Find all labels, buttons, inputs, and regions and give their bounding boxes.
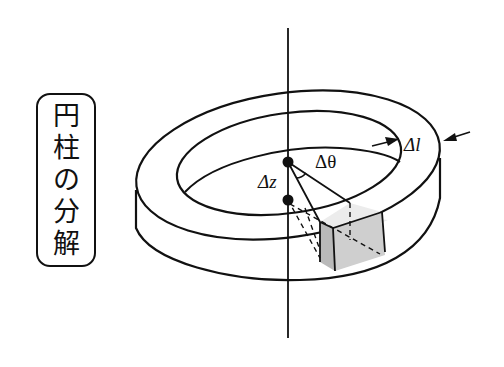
ring-diagram: Δl Δθ Δz bbox=[0, 0, 504, 367]
delta-l-arrowhead-outer bbox=[443, 133, 457, 141]
cylinder-decomposition-figure: 円 柱 の 分 解 bbox=[0, 0, 504, 367]
angle-arc bbox=[296, 173, 306, 178]
axis-point-upper bbox=[283, 157, 294, 168]
label-delta-l: Δl bbox=[403, 134, 420, 155]
label-delta-z: Δz bbox=[257, 171, 277, 192]
axis-point-lower bbox=[283, 195, 294, 206]
label-delta-theta: Δθ bbox=[315, 151, 336, 172]
